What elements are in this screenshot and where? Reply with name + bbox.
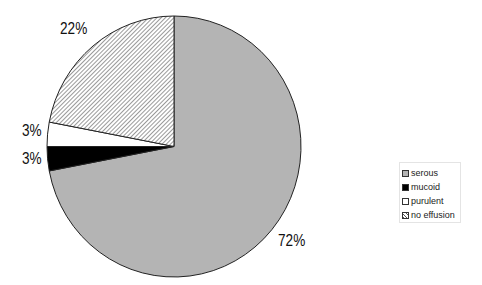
no-effusion-swatch-icon xyxy=(402,212,409,219)
legend-item-serous: serous xyxy=(402,166,460,180)
label-serous: 72% xyxy=(278,232,305,250)
mucoid-swatch-icon xyxy=(402,184,409,191)
legend-item-purulent: purulent xyxy=(402,194,460,208)
legend-label: mucoid xyxy=(411,182,440,192)
pie-slices xyxy=(47,16,301,277)
pie-chart xyxy=(0,0,482,285)
label-purulent: 3% xyxy=(22,122,42,140)
legend-label: purulent xyxy=(411,196,444,206)
legend-item-no-effusion: no effusion xyxy=(402,208,460,222)
legend-label: serous xyxy=(411,168,438,178)
label-no-effusion: 22% xyxy=(60,20,87,38)
legend-item-mucoid: mucoid xyxy=(402,180,460,194)
legend: serous mucoid purulent no effusion xyxy=(399,162,461,223)
label-mucoid: 3% xyxy=(22,150,42,168)
serous-swatch-icon xyxy=(402,170,409,177)
legend-label: no effusion xyxy=(411,210,455,220)
purulent-swatch-icon xyxy=(402,198,409,205)
